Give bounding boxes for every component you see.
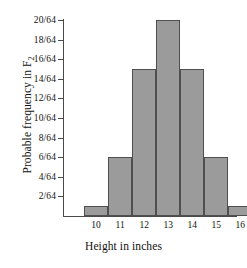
- x-axis-tick-label: 14: [180, 220, 204, 231]
- y-axis-tick-label-text: 2/64: [4, 191, 56, 201]
- histogram-bar: [132, 69, 156, 216]
- y-axis-tick-label: 16/64: [0, 54, 56, 64]
- y-axis-tick-label: 18/64: [0, 35, 56, 45]
- x-axis-tick-label: 13: [156, 220, 180, 231]
- x-axis-tick-label: 15: [204, 220, 228, 231]
- histogram-bar: [156, 20, 180, 216]
- histogram-bar: [84, 206, 108, 216]
- x-axis-tick-label: 11: [108, 220, 132, 231]
- y-axis-tick-label-text: 12/64: [4, 93, 56, 103]
- y-axis-tick-label-text: 8/64: [4, 133, 56, 143]
- y-axis-tick-label: 2/64: [0, 191, 56, 201]
- x-axis-tick-label: 10: [84, 220, 108, 231]
- histogram-chart: Probable frequency in F2 2/644/646/648/6…: [0, 0, 247, 268]
- y-axis-tick-label: 6/64: [0, 152, 56, 162]
- y-axis-tick-label: 20/64: [0, 15, 56, 25]
- y-axis-tick-label: 4/64: [0, 172, 56, 182]
- histogram-bar: [228, 206, 247, 216]
- y-axis-tick-label: 12/64: [0, 93, 56, 103]
- x-axis-tick-label: 16: [228, 220, 247, 231]
- y-axis-tick-label-text: 20/64: [4, 15, 56, 25]
- y-axis-tick-label-text: 18/64: [4, 35, 56, 45]
- y-axis-tick-label: 10/64: [0, 113, 56, 123]
- y-axis-tick-label: 14/64: [0, 74, 56, 84]
- x-axis-title: Height in inches: [0, 240, 247, 252]
- plot-area: [63, 20, 235, 216]
- histogram-bar: [180, 69, 204, 216]
- y-axis-tick-label-text: 10/64: [4, 113, 56, 123]
- histogram-bar: [108, 157, 132, 216]
- y-axis-tick-label-text: 6/64: [4, 152, 56, 162]
- y-axis-tick-label-text: 16/64: [4, 54, 56, 64]
- x-axis-line: [63, 216, 237, 217]
- histogram-bar: [204, 157, 228, 216]
- y-axis-tick-label: 8/64: [0, 133, 56, 143]
- y-axis-tick-label-text: 14/64: [4, 74, 56, 84]
- x-axis-tick-label: 12: [132, 220, 156, 231]
- y-axis-tick-label-text: 4/64: [4, 172, 56, 182]
